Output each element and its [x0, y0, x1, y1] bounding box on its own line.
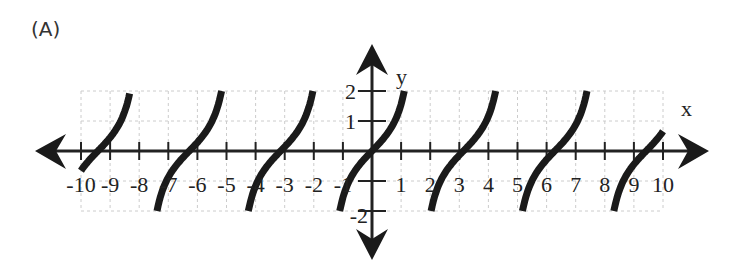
x-axis-label: x: [681, 96, 692, 121]
x-tick-label: -5: [217, 172, 235, 197]
x-tick-label: -3: [276, 172, 294, 197]
x-tick-label: 10: [652, 172, 674, 197]
curve-branch-1: [81, 94, 130, 171]
x-tick-label: -9: [101, 172, 119, 197]
x-tick-label: -6: [188, 172, 206, 197]
x-tick-label: 2: [425, 172, 436, 197]
x-tick-label: 9: [628, 172, 639, 197]
x-tick-label: -7: [159, 172, 177, 197]
x-tick-label: 4: [483, 172, 494, 197]
y-tick-label: 2: [345, 79, 356, 104]
x-tick-label: 1: [396, 172, 407, 197]
x-tick-label: 7: [570, 172, 581, 197]
x-tick-label: -2: [305, 172, 323, 197]
x-tick-label: 6: [541, 172, 552, 197]
x-tick-label: -4: [246, 172, 264, 197]
y-axis-label: y: [396, 64, 407, 89]
y-tick-label: -2: [350, 203, 368, 228]
tangent-plot: -10-9-8-7-6-5-4-3-2-112345678910-212 x y: [0, 0, 737, 272]
x-tick-label: 3: [454, 172, 465, 197]
x-tick-label: 5: [512, 172, 523, 197]
x-tick-label: 8: [599, 172, 610, 197]
x-tick-label: -10: [66, 172, 95, 197]
x-tick-label: -8: [130, 172, 148, 197]
y-tick-label: 1: [345, 109, 356, 134]
x-tick-label: -1: [334, 172, 352, 197]
